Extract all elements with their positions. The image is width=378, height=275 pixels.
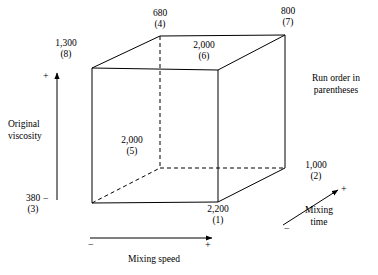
corner-value: 1,000: [288, 160, 344, 171]
corner-label-front-top-left: 1,300 (8): [33, 38, 99, 60]
corner-label-front-top-right: 2,000 (6): [171, 40, 237, 62]
corner-value: 2,200: [185, 204, 251, 215]
vertical-axis-minus-sign: −: [43, 194, 49, 204]
depth-axis-minus-sign: −: [284, 224, 290, 234]
corner-label-back-bottom-right: 1,000 (2): [288, 160, 344, 182]
corner-run-order: (3): [0, 204, 66, 215]
corner-value: 2,000: [104, 135, 160, 146]
corner-value: 380: [0, 193, 66, 204]
depth-axis-label-line2: time: [311, 217, 328, 227]
corner-label-back-top-right: 800 (7): [256, 6, 320, 28]
corner-label-front-bottom-left: 380 (3): [0, 193, 66, 215]
factorial-cube-figure: 380 (3) 2,200 (1) 1,300 (8) 2,000 (6) 2,…: [0, 0, 378, 275]
corner-run-order: (8): [33, 49, 99, 60]
corner-label-front-bottom-right: 2,200 (1): [185, 204, 251, 226]
corner-value: 2,000: [171, 40, 237, 51]
vertical-axis-plus-sign: +: [43, 71, 49, 81]
cube-edge-front-bottom: [92, 202, 218, 203]
run-order-note-line1: Run order in: [296, 72, 376, 84]
run-order-note: Run order in parentheses: [296, 72, 376, 96]
vertical-axis-label-line1: Original: [8, 119, 40, 129]
corner-label-back-bottom-left: 2,000 (5): [104, 135, 160, 157]
corner-run-order: (2): [288, 171, 344, 182]
vertical-axis-label-line2: viscosity: [8, 131, 42, 141]
cube-hidden-edge-bottom-left-depth: [92, 168, 160, 203]
corner-run-order: (6): [171, 51, 237, 62]
corner-value: 680: [128, 8, 192, 19]
corner-run-order: (5): [104, 146, 160, 157]
vertical-axis-label: Original viscosity: [8, 119, 42, 142]
corner-run-order: (1): [185, 215, 251, 226]
cube-edge-bottom-right-depth: [218, 168, 285, 202]
horizontal-axis-minus-sign: −: [88, 240, 94, 250]
corner-run-order: (4): [128, 19, 192, 30]
cube-edge-back-top: [160, 35, 285, 36]
corner-label-back-top-left: 680 (4): [128, 8, 192, 30]
horizontal-axis-plus-sign: +: [205, 240, 211, 250]
horizontal-axis-label: Mixing speed: [128, 254, 180, 266]
cube-edge-front-top: [92, 68, 218, 70]
corner-value: 800: [256, 6, 320, 17]
depth-axis-label: Mixing time: [305, 205, 333, 228]
corner-value: 1,300: [33, 38, 99, 49]
corner-run-order: (7): [256, 17, 320, 28]
depth-axis-plus-sign: +: [341, 184, 347, 194]
run-order-note-line2: parentheses: [296, 84, 376, 96]
depth-axis-label-line1: Mixing: [305, 205, 333, 215]
cube-edge-top-left-depth: [92, 36, 160, 68]
